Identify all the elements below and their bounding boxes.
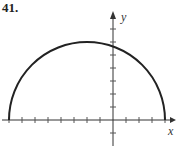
semicircle-curve	[9, 42, 165, 120]
chart-plot	[0, 0, 177, 148]
y-axis-arrow-icon	[110, 11, 116, 19]
x-axis-label: x	[168, 124, 173, 139]
y-axis-label: y	[121, 10, 126, 25]
x-axis-arrow-icon	[170, 117, 176, 123]
